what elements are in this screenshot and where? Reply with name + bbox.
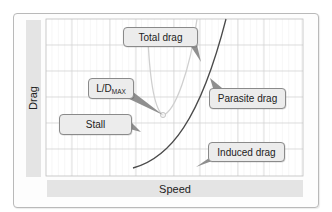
ld-sub: MAX <box>112 88 126 95</box>
callout-parasite-drag: Parasite drag <box>209 88 286 109</box>
callout-ld-max-text: L/DMAX <box>96 83 126 95</box>
callout-stall-text: Stall <box>86 119 105 130</box>
ld-main: L/D <box>96 83 112 94</box>
callout-parasite-drag-text: Parasite drag <box>218 93 277 104</box>
callout-ld-max: L/DMAX <box>88 78 134 99</box>
callout-stall: Stall <box>59 114 132 135</box>
callout-induced-drag-text: Induced drag <box>217 147 275 158</box>
callout-total-drag-text: Total drag <box>139 32 183 43</box>
callout-total-drag: Total drag <box>123 27 198 47</box>
callout-induced-drag: Induced drag <box>208 142 285 162</box>
